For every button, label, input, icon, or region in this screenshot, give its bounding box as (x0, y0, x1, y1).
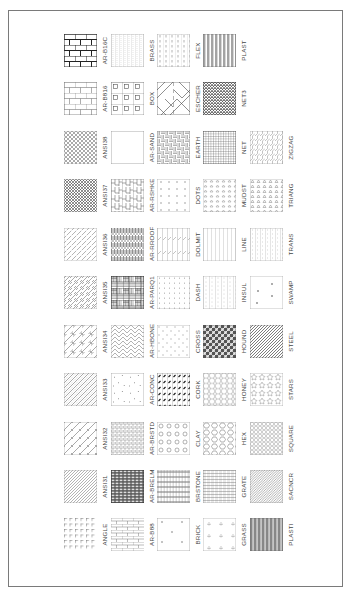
swatch-zigzag (250, 131, 283, 164)
swatch-steel (250, 325, 283, 358)
swatch-ansi36 (64, 228, 97, 261)
swatch-label: TRANS (286, 228, 296, 261)
swatch-ar-parq1 (111, 276, 144, 309)
swatch-label: AR-B816 (100, 82, 110, 115)
swatch-label: SQUARE (286, 422, 296, 455)
swatch-trans (250, 228, 283, 261)
swatch-square (250, 422, 283, 455)
swatch-hex (203, 422, 236, 455)
swatch-label: GRATE (239, 470, 249, 503)
swatch-label: ESCHER (193, 82, 203, 115)
swatch-ansi33 (64, 373, 97, 406)
swatch-label: STARS (286, 373, 296, 406)
swatch-label: ZIGZAG (286, 131, 296, 164)
swatch-label: EARTH (193, 131, 203, 164)
swatch-ansi37 (64, 179, 97, 212)
swatch-dots (157, 179, 190, 212)
swatch-label: CORK (193, 373, 203, 406)
swatch-label: LINE (239, 228, 249, 261)
swatch-label: ANSI38 (100, 131, 110, 164)
swatch-hound (203, 325, 236, 358)
swatch-label: ANSI33 (100, 373, 110, 406)
swatch-label: AR-B16C (100, 34, 110, 67)
swatch-label: FLEX (193, 34, 203, 67)
swatch-label: HEX (239, 422, 249, 455)
swatch-label: AR-BRELM (147, 470, 157, 503)
swatch-ar-brstd (111, 422, 144, 455)
swatch-triang (250, 179, 283, 212)
swatch-label: BOX (147, 82, 157, 115)
swatch-ansi32 (64, 422, 97, 455)
swatch-label: TRIANG (286, 179, 296, 212)
swatch-sacncr (250, 470, 283, 503)
swatch-net3 (203, 82, 236, 115)
swatch-dolmit (157, 228, 190, 261)
swatch-label: AR-SAND (147, 131, 157, 164)
swatch-label: ANSI31 (100, 470, 110, 503)
swatch-honey (203, 373, 236, 406)
swatch-label: BRICK (193, 518, 203, 551)
swatch-label: INSUL (239, 276, 249, 309)
swatch-label: AR-HBONE (147, 325, 157, 358)
swatch-insul (203, 276, 236, 309)
swatch-label: ANGLE (100, 518, 110, 551)
swatch-label: PLASTI (286, 518, 296, 551)
swatch-label: ANSI35 (100, 276, 110, 309)
swatch-label: MUDST (239, 179, 249, 212)
swatch-label: PLAST (239, 34, 249, 67)
swatch-plast (203, 34, 236, 67)
swatch-ar-rshke (111, 179, 144, 212)
swatch-grate (203, 470, 236, 503)
swatch-stars (250, 373, 283, 406)
swatch-clay (157, 422, 190, 455)
swatch-brass (111, 34, 144, 67)
swatch-ar-hbone (111, 325, 144, 358)
swatch-label: AR-CONC (147, 373, 157, 406)
swatch-label: SWAMP (286, 276, 296, 309)
swatch-label: DOLMIT (193, 228, 203, 261)
swatch-label: SACNCR (286, 470, 296, 503)
swatch-line (203, 228, 236, 261)
swatch-label: DASH (193, 276, 203, 309)
swatch-label: AR-RSHKE (147, 179, 157, 212)
swatch-mudst (203, 179, 236, 212)
swatch-label: CROSS (193, 325, 203, 358)
swatch-label: NET3 (239, 82, 249, 115)
swatch-ansi35 (64, 276, 97, 309)
swatch-ar-b16c (64, 34, 97, 67)
swatch-label: AR-B88 (147, 518, 157, 551)
swatch-ar-b816 (64, 82, 97, 115)
swatch-label: STEEL (286, 325, 296, 358)
swatch-ar-sand (111, 131, 144, 164)
swatch-cross (157, 325, 190, 358)
swatch-label: BRASS (147, 34, 157, 67)
swatch-plasti (250, 518, 283, 551)
swatch-label: AR-PARQ1 (147, 276, 157, 309)
swatch-label: CLAY (193, 422, 203, 455)
swatch-label: ANSI36 (100, 228, 110, 261)
swatch-box (111, 82, 144, 115)
swatch-cork (157, 373, 190, 406)
swatch-label: AR-BRSTD (147, 422, 157, 455)
swatch-earth (157, 131, 190, 164)
swatch-label: AR-RROOF (147, 228, 157, 261)
swatch-ar-rroof (111, 228, 144, 261)
swatch-label: HOUND (239, 325, 249, 358)
swatch-ar-b88 (111, 518, 144, 551)
swatch-ar-conc (111, 373, 144, 406)
swatch-label: NET (239, 131, 249, 164)
swatch-label: HONEY (239, 373, 249, 406)
swatch-ansi38 (64, 131, 97, 164)
swatch-swamp (250, 276, 283, 309)
swatch-flex (157, 34, 190, 67)
swatch-brstone (157, 470, 190, 503)
swatch-grass (203, 518, 236, 551)
swatch-angle (64, 518, 97, 551)
swatch-label: ANSI32 (100, 422, 110, 455)
swatch-label: GRASS (239, 518, 249, 551)
swatch-ar-brelm (111, 470, 144, 503)
swatch-label: DOTS (193, 179, 203, 212)
swatch-ansi34 (64, 325, 97, 358)
swatch-label: ANSI34 (100, 325, 110, 358)
swatch-net (203, 131, 236, 164)
